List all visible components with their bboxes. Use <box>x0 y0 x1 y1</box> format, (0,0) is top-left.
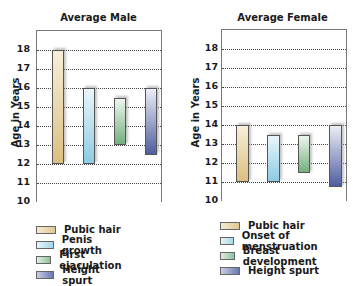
swatch-icon <box>36 271 54 279</box>
bar-first-ejaculation <box>114 98 126 145</box>
y-tick: 11 <box>202 176 218 186</box>
plot-area <box>36 30 162 202</box>
y-tick: 14 <box>14 120 30 130</box>
legend-item: Height spurt <box>36 267 126 282</box>
y-tick: 18 <box>202 43 218 53</box>
swatch-icon <box>220 252 235 260</box>
y-tick: 12 <box>202 157 218 167</box>
swatch-icon <box>36 241 54 249</box>
y-tick: 11 <box>14 177 30 187</box>
gridline <box>222 106 346 107</box>
bar-penis-growth <box>83 88 95 164</box>
bar-height-spurt <box>329 125 342 187</box>
legend: Pubic hair Penis growth First ejaculatio… <box>36 222 126 282</box>
y-tick: 14 <box>202 119 218 129</box>
legend-label: Breast development <box>243 245 324 267</box>
swatch-icon <box>36 256 51 264</box>
y-tick: 10 <box>202 195 218 205</box>
swatch-icon <box>36 226 56 234</box>
y-tick: 16 <box>202 81 218 91</box>
y-tick: 18 <box>14 44 30 54</box>
legend-label: Height spurt <box>248 265 319 276</box>
y-tick: 17 <box>202 62 218 72</box>
gridline <box>37 164 161 165</box>
y-axis-label: Age in Years <box>190 78 201 148</box>
y-tick: 15 <box>202 100 218 110</box>
bar-height-spurt <box>145 88 157 155</box>
swatch-icon <box>220 222 240 230</box>
legend-label: Height spurt <box>62 264 126 286</box>
gridline <box>222 68 346 69</box>
swatch-icon <box>220 237 234 245</box>
gridline <box>37 183 161 184</box>
y-tick: 17 <box>14 63 30 73</box>
gridline <box>222 87 346 88</box>
swatch-icon <box>220 267 240 275</box>
gridline <box>222 49 346 50</box>
y-tick: 10 <box>14 196 30 206</box>
bar-onset-of-menstruation <box>267 135 280 182</box>
chart-title: Average Male <box>36 12 161 23</box>
y-tick: 13 <box>14 139 30 149</box>
legend: Pubic hair Onset of menstruation Breast … <box>220 218 324 278</box>
legend-item: Breast development <box>220 248 324 263</box>
legend-item: Height spurt <box>220 263 324 278</box>
y-tick: 16 <box>14 82 30 92</box>
bar-breast-development <box>298 135 310 173</box>
gridline <box>222 182 346 183</box>
bar-pubic-hair <box>236 125 249 182</box>
y-tick: 15 <box>14 101 30 111</box>
plot-area <box>221 29 347 201</box>
y-tick: 13 <box>202 138 218 148</box>
y-tick: 12 <box>14 158 30 168</box>
bar-pubic-hair <box>52 50 64 164</box>
chart-title: Average Female <box>220 12 345 23</box>
